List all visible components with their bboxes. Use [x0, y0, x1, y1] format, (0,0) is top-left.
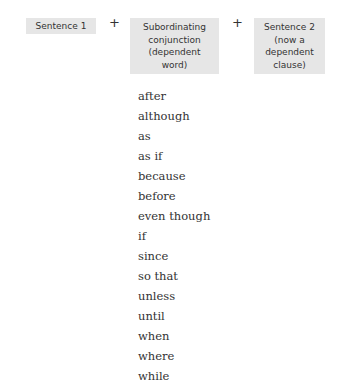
list-item: if [138, 226, 210, 246]
list-item: where [138, 346, 210, 366]
list-item: when [138, 326, 210, 346]
plus-operator: + [232, 16, 243, 29]
list-item: before [138, 186, 210, 206]
list-item: until [138, 306, 210, 326]
conjunction-list: after although as as if because before e… [138, 86, 210, 383]
list-item: because [138, 166, 210, 186]
list-item: as if [138, 146, 210, 166]
list-item: unless [138, 286, 210, 306]
list-item: even though [138, 206, 210, 226]
list-item: after [138, 86, 210, 106]
plus-operator: + [109, 16, 120, 29]
sentence-1-box: Sentence 1 [26, 18, 96, 34]
list-item: while [138, 366, 210, 383]
subordinating-conjunction-box: Subordinating conjunction (dependent wor… [130, 18, 219, 74]
list-item: although [138, 106, 210, 126]
sentence-2-box: Sentence 2 (now a dependent clause) [254, 18, 325, 74]
list-item: since [138, 246, 210, 266]
list-item: so that [138, 266, 210, 286]
list-item: as [138, 126, 210, 146]
